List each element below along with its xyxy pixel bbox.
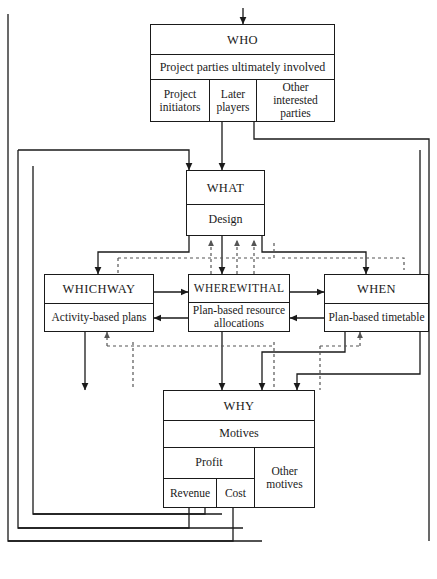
diagram-canvas: WHO Project parties ultimately involved … <box>0 0 437 579</box>
wire-right-rail-to-why <box>297 150 420 390</box>
node-wherewithal[interactable]: WHEREWITHAL Plan-based resource allocati… <box>188 274 290 332</box>
node-why-cost: Cost <box>216 479 254 507</box>
node-who-title: WHO <box>151 25 334 54</box>
node-why-parts: Profit Revenue Cost Other motives <box>164 447 314 507</box>
node-why-profit-group: Profit Revenue Cost <box>164 448 254 507</box>
node-who-parts: Project initiators Later players Other i… <box>151 79 334 121</box>
node-what[interactable]: WHAT Design <box>186 170 265 236</box>
node-why-profit: Profit <box>164 448 254 478</box>
node-why[interactable]: WHY Motives Profit Revenue Cost Other mo… <box>163 390 315 508</box>
node-why-title: WHY <box>164 391 314 420</box>
wire-what-to-when <box>262 236 366 274</box>
node-why-other-motives: Other motives <box>254 448 314 507</box>
node-what-title: WHAT <box>187 171 264 204</box>
node-why-subtitle: Motives <box>164 420 314 447</box>
node-when[interactable]: WHEN Plan-based timetable <box>324 274 429 332</box>
wire-why-out-1 <box>18 508 189 528</box>
node-wherewithal-subtitle: Plan-based resource allocations <box>189 302 289 331</box>
node-who-part-initiators: Project initiators <box>151 80 209 121</box>
node-who-part-other-parties: Other interested parties <box>256 80 334 121</box>
node-whichway-subtitle: Activity-based plans <box>45 303 153 331</box>
wire-leftrail-to-what <box>18 150 189 170</box>
wire-why-out-2 <box>33 508 205 514</box>
wire-feedback-rail-right <box>282 258 404 270</box>
wire-feedback-rail-left <box>118 240 274 258</box>
node-who-part-later-players: Later players <box>209 80 256 121</box>
node-why-revenue: Revenue <box>164 479 216 507</box>
node-when-subtitle: Plan-based timetable <box>325 303 428 331</box>
wire-what-to-whichway <box>98 236 189 274</box>
node-whichway[interactable]: WHICHWAY Activity-based plans <box>44 274 154 332</box>
node-who[interactable]: WHO Project parties ultimately involved … <box>150 24 335 122</box>
node-why-profit-breakdown: Revenue Cost <box>164 478 254 507</box>
wire-why-out-3 <box>8 508 233 541</box>
node-whichway-title: WHICHWAY <box>45 275 153 303</box>
node-who-subtitle: Project parties ultimately involved <box>151 54 334 79</box>
node-when-title: WHEN <box>325 275 428 303</box>
node-what-subtitle: Design <box>187 204 264 235</box>
node-wherewithal-title: WHEREWITHAL <box>189 275 289 302</box>
